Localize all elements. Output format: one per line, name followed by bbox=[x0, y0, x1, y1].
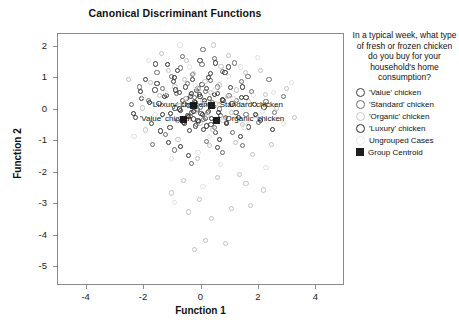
legend-item-label: Group Centroid bbox=[368, 148, 423, 157]
y-axis-tick bbox=[53, 77, 57, 78]
y-axis-tick-label: -5 bbox=[17, 260, 47, 271]
x-axis-tick-label: -4 bbox=[66, 291, 106, 302]
legend-item-label: 'Standard' chicken bbox=[369, 100, 434, 109]
y-axis-tick bbox=[53, 203, 57, 204]
legend-item: 'Luxury' chicken bbox=[356, 123, 459, 135]
x-axis-tick bbox=[315, 285, 316, 289]
centroid-label: 'Organic' chicken bbox=[224, 114, 284, 123]
y-axis-tick bbox=[53, 140, 57, 141]
centroid-label: 'Standard' chicken bbox=[218, 100, 283, 109]
legend-item: 'Standard' chicken bbox=[356, 99, 459, 111]
legend-item-label: Ungrouped Cases bbox=[369, 136, 433, 145]
x-axis-tick bbox=[258, 285, 259, 289]
open-circle-icon bbox=[356, 136, 365, 145]
x-axis-title: Function 1 bbox=[57, 305, 344, 316]
centroid-label-layer: 'Value' chicken'Luxury' chicken'Standard… bbox=[58, 34, 343, 284]
open-circle-icon bbox=[356, 88, 365, 97]
open-circle-icon bbox=[356, 124, 365, 133]
canonical-discriminant-scatter-chart: Canonical Discriminant Functions 'Value'… bbox=[0, 0, 459, 328]
y-axis-tick bbox=[53, 172, 57, 173]
x-axis-tick bbox=[143, 285, 144, 289]
legend-title: In a typical week, what type of fresh or… bbox=[352, 30, 457, 83]
x-axis-tick bbox=[201, 285, 202, 289]
legend: In a typical week, what type of fresh or… bbox=[352, 30, 459, 158]
legend-item: Ungrouped Cases bbox=[356, 135, 459, 147]
legend-item-label: 'Luxury' chicken bbox=[369, 124, 425, 133]
legend-item-label: 'Organic' chicken bbox=[369, 112, 429, 121]
open-circle-icon bbox=[356, 112, 365, 121]
legend-item-label: 'Value' chicken bbox=[369, 88, 421, 97]
x-axis-tick-label: 2 bbox=[238, 291, 278, 302]
x-axis-tick-label: -2 bbox=[123, 291, 163, 302]
x-axis-tick-label: 0 bbox=[181, 291, 221, 302]
x-axis-tick bbox=[86, 285, 87, 289]
filled-square-icon bbox=[356, 148, 364, 156]
y-axis-tick bbox=[53, 235, 57, 236]
plot-area: 'Value' chicken'Luxury' chicken'Standard… bbox=[57, 33, 344, 285]
y-axis-tick-label: -3 bbox=[17, 197, 47, 208]
legend-item: 'Value' chicken bbox=[356, 87, 459, 99]
y-axis-title: Function 2 bbox=[12, 109, 23, 199]
open-circle-icon bbox=[356, 100, 365, 109]
y-axis-tick bbox=[53, 266, 57, 267]
y-axis-tick-label: 2 bbox=[17, 40, 47, 51]
y-axis-tick-label: -4 bbox=[17, 229, 47, 240]
legend-item: Group Centroid bbox=[356, 146, 459, 158]
chart-title: Canonical Discriminant Functions bbox=[0, 7, 350, 19]
centroid-label: 'Luxury' chicken bbox=[151, 100, 207, 109]
legend-item: 'Organic' chicken bbox=[356, 111, 459, 123]
centroid-label: 'Value' chicken bbox=[140, 114, 192, 123]
y-axis-tick bbox=[53, 46, 57, 47]
legend-items: 'Value' chicken'Standard' chicken'Organi… bbox=[352, 87, 459, 158]
x-axis-tick-label: 4 bbox=[295, 291, 335, 302]
y-axis-tick-label: 1 bbox=[17, 71, 47, 82]
y-axis-tick bbox=[53, 109, 57, 110]
